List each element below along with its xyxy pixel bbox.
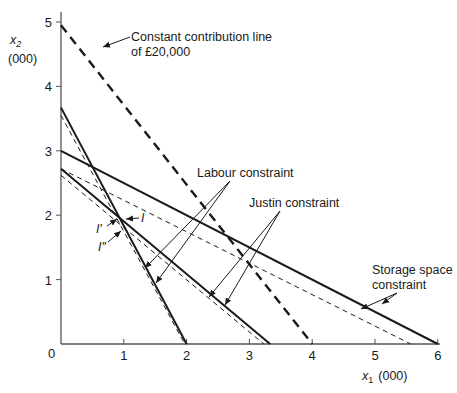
- x-tick-label: 4: [309, 348, 316, 363]
- labour-constraint-line: [61, 108, 187, 344]
- x-tick-label: 5: [371, 348, 378, 363]
- labour-arrow-1: [145, 181, 230, 268]
- y-tick-label: 5: [45, 15, 52, 30]
- y-axis-label-unit: (000): [8, 52, 37, 66]
- y-tick-label: 2: [45, 208, 52, 223]
- justin-constraint-revised-line: [61, 175, 264, 344]
- y-axis-label-var: x2: [9, 33, 21, 49]
- storage-constraint-annotation-2: constraint: [372, 278, 427, 292]
- origin-label: 0: [48, 346, 55, 361]
- y-tick-label: 3: [45, 144, 52, 159]
- constant-contribution-line-of-20-000-line: [61, 25, 312, 344]
- point-i-prime-arrow: [107, 219, 117, 226]
- point-i-arrow: [126, 218, 139, 219]
- point-i-double-prime-label: I″: [98, 240, 106, 254]
- justin-constraint-annotation: Justin constraint: [249, 196, 340, 210]
- justin-arrow-1: [209, 211, 280, 297]
- point-i-label: I: [141, 211, 145, 225]
- linear-programming-chart: 12345612345 x2 (000) x1(000) 0 Constant …: [0, 0, 457, 393]
- x-tick-label: 3: [246, 348, 253, 363]
- justin-constraint-line: [61, 169, 270, 344]
- contribution-arrow: [103, 37, 130, 47]
- storage-space-constraint-revised-line: [61, 169, 411, 344]
- x-axis-label: x1(000): [361, 369, 407, 385]
- x-tick-label: 6: [434, 348, 441, 363]
- x-tick-label: 2: [183, 348, 190, 363]
- labour-constraint-annotation: Labour constraint: [197, 166, 294, 180]
- contribution-line-annotation: Constant contribution line: [131, 30, 272, 44]
- y-tick-label: 4: [45, 79, 52, 94]
- storage-arrow-1: [361, 293, 397, 309]
- y-tick-label: 1: [45, 273, 52, 288]
- point-i-prime-label: I′: [96, 222, 102, 236]
- point-i-double-prime-arrow: [108, 231, 121, 242]
- labour-constraint-revised-line: [61, 115, 185, 344]
- contribution-line-annotation-2: of £20,000: [131, 45, 190, 59]
- storage-constraint-annotation: Storage space: [372, 263, 453, 277]
- x-tick-label: 1: [120, 348, 127, 363]
